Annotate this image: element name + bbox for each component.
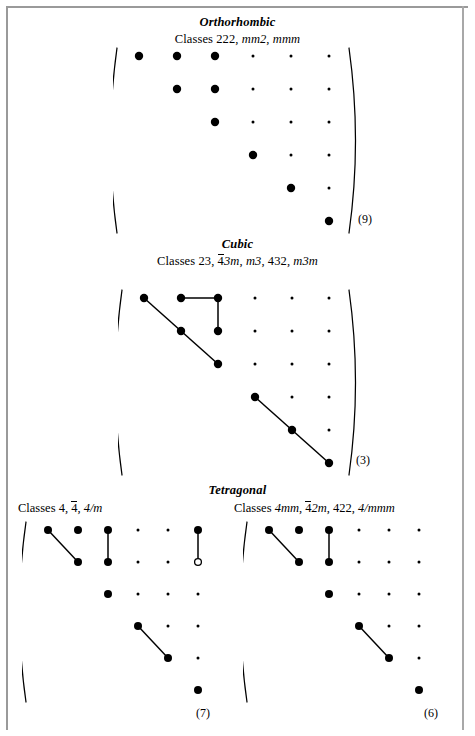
nonzero-component-dot-r1c3: [214, 294, 222, 302]
nonzero-component-dot-r5c5: [287, 184, 295, 192]
matrix-orthorhombic: [113, 46, 358, 238]
nonzero-component-dot-r3c3: [104, 590, 112, 598]
nonzero-component-dot-r1c1: [135, 52, 143, 60]
class-symbol-3: 2m: [311, 501, 326, 515]
zero-component-dot-r1c5: [388, 529, 391, 532]
section-classes-tetragonal-right: Classes 4mm, 42m, 422, 4/mmm: [234, 500, 395, 516]
nonzero-component-dot-r1c3: [104, 526, 112, 534]
nonzero-component-dot-r1c3: [211, 52, 219, 60]
nonzero-component-dot-r3c3: [211, 118, 219, 126]
class-symbol-4: 4/m: [84, 501, 103, 515]
count-label-tetragonal-left: (7): [196, 706, 210, 721]
class-symbol-5: m3: [246, 254, 261, 268]
class-symbol-7: 4/mmm: [358, 501, 395, 515]
nonzero-component-dot-r6c6: [415, 686, 423, 694]
section-classes-cubic: Classes 23, 43m, m3, 432, m3m: [0, 252, 475, 270]
zero-component-dot-r4c5: [167, 625, 170, 628]
nonzero-component-dot-r6c6: [194, 686, 202, 694]
zero-component-dot-r4c5: [388, 625, 391, 628]
nonzero-component-dot-r3c3: [325, 590, 333, 598]
nonzero-component-dot-r4c4: [249, 151, 257, 159]
zero-component-dot-r3c4: [358, 593, 361, 596]
zero-component-dot-r2c4: [358, 561, 361, 564]
zero-component-dot-r3c4: [137, 593, 140, 596]
zero-component-dot-r5c6: [328, 429, 331, 432]
nonzero-component-dot-r6c6: [325, 217, 333, 225]
equality-link-2: [359, 626, 389, 658]
zero-component-dot-r1c5: [291, 297, 294, 300]
zero-component-dot-r4c6: [328, 396, 331, 399]
class-symbol-5: 422: [333, 501, 352, 515]
zero-component-dot-r2c4: [252, 88, 255, 91]
nonzero-component-dot-r2c3: [211, 85, 219, 93]
zero-component-dot-r4c6: [328, 154, 331, 157]
nonzero-component-dot-r3c3: [214, 360, 222, 368]
classes-prefix: Classes: [175, 32, 216, 46]
negated-component-circle-r2c6: [195, 559, 202, 566]
zero-component-dot-r1c6: [418, 529, 421, 532]
page-frame-right-rule: [462, 6, 464, 730]
nonzero-component-dot-r2c3: [214, 327, 222, 335]
zero-component-dot-r2c6: [328, 330, 331, 333]
equality-link-0: [269, 530, 299, 562]
zero-component-dot-r5c6: [197, 657, 200, 660]
zero-component-dot-r1c5: [167, 529, 170, 532]
zero-component-dot-r2c4: [254, 330, 257, 333]
nonzero-component-dot-r2c2: [173, 85, 181, 93]
equality-link-4: [255, 397, 292, 430]
nonzero-component-dot-r5c5: [288, 426, 296, 434]
count-label-tetragonal-right: (6): [424, 706, 438, 721]
matrix-left-paren: [118, 290, 122, 475]
nonzero-component-dot-r1c1: [140, 294, 148, 302]
matrix-left-paren: [243, 522, 247, 702]
nonzero-component-dot-r5c5: [385, 654, 393, 662]
zero-component-dot-r3c6: [328, 363, 331, 366]
nonzero-component-dot-r6c6: [325, 459, 333, 467]
zero-component-dot-r4c6: [197, 625, 200, 628]
nonzero-component-dot-r1c3: [325, 526, 333, 534]
nonzero-component-dot-r1c2: [177, 294, 185, 302]
zero-component-dot-r2c6: [418, 561, 421, 564]
count-label-cubic: (3): [356, 453, 370, 468]
classes-prefix: Classes: [157, 254, 198, 268]
class-symbol-0: 4mm: [275, 501, 299, 515]
class-symbol-0: 23: [198, 254, 211, 268]
zero-component-dot-r1c4: [358, 529, 361, 532]
equality-link-0: [48, 530, 78, 562]
zero-component-dot-r2c4: [137, 561, 140, 564]
section-title-tetragonal: Tetragonal: [0, 482, 475, 498]
zero-component-dot-r4c6: [418, 625, 421, 628]
equality-link-5: [292, 430, 329, 463]
section-cubic: Cubic Classes 23, 43m, m3, 432, m3m: [0, 236, 475, 270]
nonzero-component-dot-r1c2: [173, 52, 181, 60]
zero-component-dot-r3c5: [388, 593, 391, 596]
page-frame-left-rule: [6, 6, 8, 730]
section-title-cubic: Cubic: [0, 236, 475, 252]
zero-component-dot-r3c6: [328, 121, 331, 124]
zero-component-dot-r4c5: [290, 154, 293, 157]
nonzero-component-dot-r1c1: [44, 526, 52, 534]
matrix-tetragonal-right: [243, 520, 438, 704]
count-label-orthorhombic: (9): [358, 212, 372, 227]
matrix-svg: [113, 46, 358, 238]
nonzero-component-dot-r5c5: [164, 654, 172, 662]
zero-component-dot-r1c5: [290, 55, 293, 58]
matrix-right-paren: [349, 48, 356, 233]
zero-component-dot-r3c5: [290, 121, 293, 124]
zero-component-dot-r1c4: [137, 529, 140, 532]
zero-component-dot-r3c4: [254, 363, 257, 366]
section-title-orthorhombic: Orthorhombic: [0, 14, 475, 30]
matrix-svg: [243, 520, 438, 704]
matrix-tetragonal-left: [22, 520, 217, 704]
equality-link-3: [138, 626, 168, 658]
zero-component-dot-r3c5: [167, 593, 170, 596]
zero-component-dot-r3c4: [252, 121, 255, 124]
nonzero-component-dot-r1c2: [295, 526, 303, 534]
class-symbol-7: 432: [268, 254, 287, 268]
classes-prefix: Classes: [18, 501, 59, 515]
nonzero-component-dot-r2c2: [74, 558, 82, 566]
nonzero-component-dot-r4c4: [355, 622, 363, 630]
nonzero-component-dot-r4c4: [134, 622, 142, 630]
zero-component-dot-r1c6: [328, 297, 331, 300]
nonzero-component-dot-r2c3: [325, 558, 333, 566]
